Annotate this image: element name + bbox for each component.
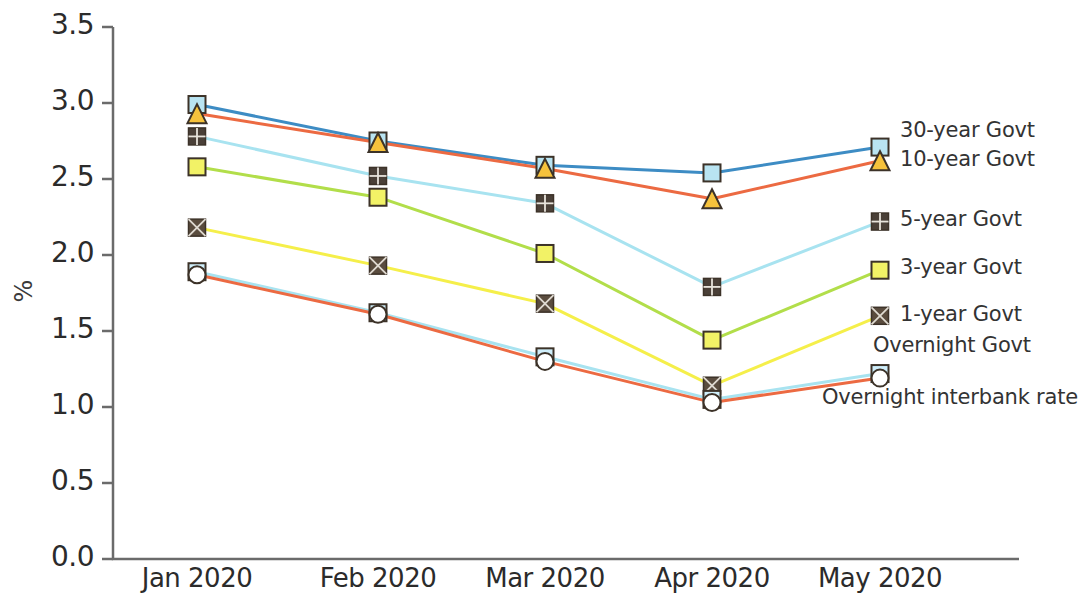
legend-label-1-year-govt: 1-year Govt xyxy=(900,302,1022,326)
legend-label-10-year-govt: 10-year Govt xyxy=(900,147,1035,171)
y-axis-tick-label: 1.5 xyxy=(18,312,94,345)
x-axis-tick-label: Mar 2020 xyxy=(450,563,640,593)
y-axis-tick-label: 2.0 xyxy=(18,236,94,269)
x-axis-tick-label: Feb 2020 xyxy=(283,563,473,593)
y-axis-tick-label: 1.0 xyxy=(18,388,94,421)
x-axis-tick-label: Jan 2020 xyxy=(102,563,292,593)
series-overnight-govt xyxy=(197,272,880,400)
y-axis-tick-label: 0.5 xyxy=(18,464,94,497)
markers-5-year-govt xyxy=(189,128,889,295)
x-axis-tick-label: Apr 2020 xyxy=(617,563,807,593)
legend-label-overnight-interbank-rate: Overnight interbank rate xyxy=(822,385,1078,409)
legend-label-30-year-govt: 30-year Govt xyxy=(900,118,1035,142)
markers-3-year-govt xyxy=(189,158,889,348)
legend-label-overnight-govt: Overnight Govt xyxy=(873,333,1031,357)
y-axis-tick-label: 0.0 xyxy=(18,540,94,573)
y-axis-tick-label: 2.5 xyxy=(18,160,94,193)
axis-spine xyxy=(113,27,1019,559)
y-axis-tick-label: 3.5 xyxy=(18,8,94,41)
legend-label-3-year-govt: 3-year Govt xyxy=(900,255,1022,279)
markers-overnight-govt xyxy=(189,263,889,408)
y-axis-tick-label: 3.0 xyxy=(18,84,94,117)
markers-30-year-govt xyxy=(189,96,889,181)
x-axis-tick-label: May 2020 xyxy=(785,563,975,593)
legend-label-5-year-govt: 5-year Govt xyxy=(900,207,1022,231)
